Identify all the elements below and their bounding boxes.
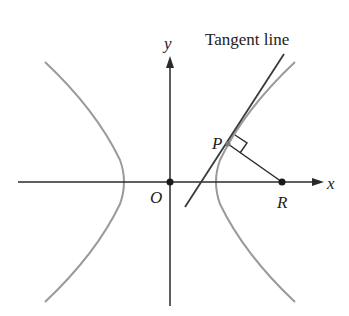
point-origin	[167, 179, 174, 186]
origin-label: O	[150, 188, 162, 207]
y-axis-label: y	[162, 34, 172, 53]
x-axis-arrow-icon	[312, 178, 324, 186]
point-r-label: R	[276, 193, 288, 212]
hyperbola-tangent-diagram: Tangent line y x O P R	[0, 0, 349, 316]
segment-pr	[228, 144, 282, 182]
point-p	[226, 142, 231, 147]
x-axis-label: x	[326, 174, 335, 193]
point-r	[279, 179, 286, 186]
tangent-line	[185, 54, 284, 207]
tangent-line-label: Tangent line	[205, 30, 289, 49]
point-p-label: P	[211, 134, 222, 153]
y-axis-arrow-icon	[166, 56, 174, 68]
